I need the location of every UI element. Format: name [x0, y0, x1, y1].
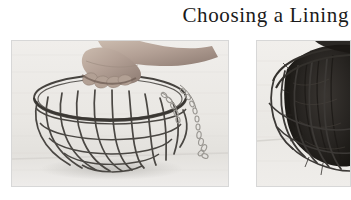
figure-image-left [12, 41, 228, 186]
figure-image-right [257, 41, 350, 186]
figure-wire-basket-lined [256, 40, 351, 187]
figure-wire-basket-empty [11, 40, 229, 187]
figure-row [0, 40, 351, 190]
wire-basket-lined-illustration [257, 41, 350, 186]
wire-basket-empty-illustration [12, 41, 228, 186]
page-title: Choosing a Lining [0, 0, 351, 30]
